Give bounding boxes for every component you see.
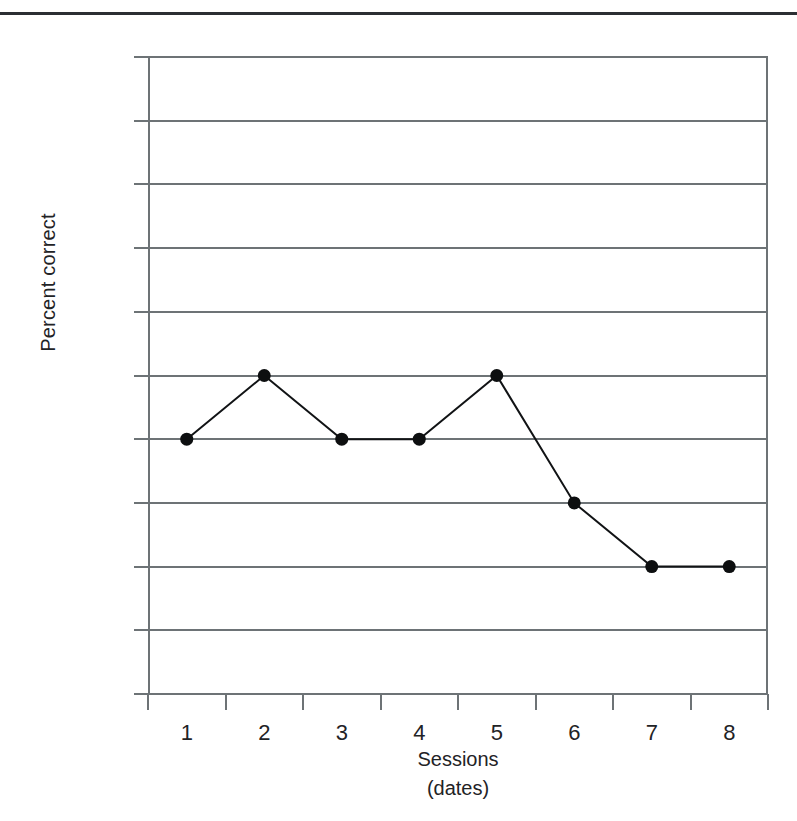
- data-point-marker: [413, 433, 426, 446]
- top-rule-divider: [0, 12, 797, 15]
- data-point-marker: [258, 369, 271, 382]
- x-tick: [457, 694, 459, 710]
- y-tick: [134, 438, 148, 440]
- y-tick: [134, 56, 148, 58]
- x-axis-title-main: Sessions: [148, 745, 768, 774]
- x-tick: [225, 694, 227, 710]
- y-tick: [134, 120, 148, 122]
- x-tick-label: 6: [544, 722, 604, 744]
- x-axis-title: Sessions (dates): [148, 745, 768, 803]
- data-point-marker: [568, 496, 581, 509]
- x-tick: [690, 694, 692, 710]
- x-tick-label: 8: [699, 722, 759, 744]
- y-tick: [134, 375, 148, 377]
- x-tick: [147, 694, 149, 710]
- series-marker-group: [180, 369, 736, 573]
- data-point-marker: [180, 433, 193, 446]
- x-tick-label: 3: [312, 722, 372, 744]
- x-tick: [767, 694, 769, 710]
- y-tick: [134, 311, 148, 313]
- data-point-marker: [490, 369, 503, 382]
- y-tick: [134, 183, 148, 185]
- data-point-marker: [645, 560, 658, 573]
- x-tick-label: 5: [467, 722, 527, 744]
- x-tick-label: 7: [622, 722, 682, 744]
- y-tick: [134, 247, 148, 249]
- y-tick: [134, 502, 148, 504]
- y-axis-title: Percent correct: [37, 173, 60, 393]
- y-tick: [134, 629, 148, 631]
- x-tick: [302, 694, 304, 710]
- x-tick: [535, 694, 537, 710]
- figure-container: Percent correct 1009080706050403020100 1…: [0, 0, 797, 821]
- data-point-marker: [335, 433, 348, 446]
- y-tick: [134, 693, 148, 695]
- plot-area: 1009080706050403020100 12345678: [148, 57, 768, 694]
- x-tick-label: 2: [234, 722, 294, 744]
- data-point-marker: [723, 560, 736, 573]
- x-tick-label: 1: [157, 722, 217, 744]
- series-line: [187, 376, 730, 567]
- x-axis-title-sub: (dates): [148, 774, 768, 803]
- data-series-plot: [148, 57, 768, 694]
- x-tick: [612, 694, 614, 710]
- y-tick: [134, 566, 148, 568]
- x-tick: [380, 694, 382, 710]
- x-tick-label: 4: [389, 722, 449, 744]
